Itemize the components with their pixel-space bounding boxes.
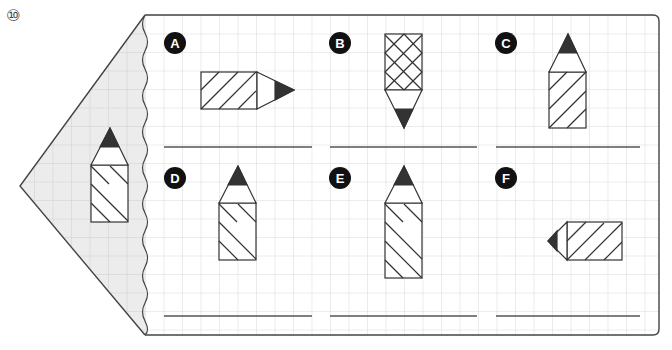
badge-b: B (329, 32, 351, 54)
svg-text:D: D (170, 171, 179, 186)
svg-text:F: F (502, 171, 510, 186)
badge-a: A (164, 32, 186, 54)
svg-text:B: B (335, 36, 344, 51)
svg-text:E: E (336, 171, 345, 186)
badge-f: F (495, 167, 517, 189)
svg-text:A: A (170, 36, 180, 51)
reference-panel (0, 0, 160, 350)
badge-d: D (164, 167, 186, 189)
svg-text:C: C (501, 36, 511, 51)
badge-c: C (495, 32, 517, 54)
badge-e: E (329, 167, 351, 189)
